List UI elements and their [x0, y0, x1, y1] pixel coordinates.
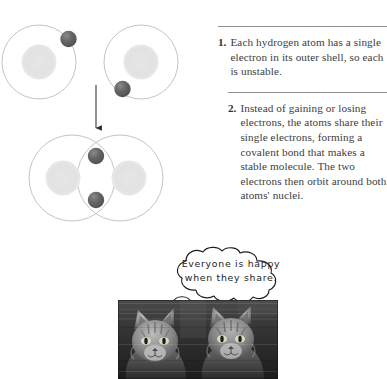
step-2: 2. Instead of gaining or losing electron… — [214, 92, 387, 203]
step-1: 1. Each hydrogen atom has a single elect… — [214, 26, 387, 79]
step-2-number: 2. — [228, 101, 236, 116]
atom-diagram-svg — [0, 0, 196, 245]
steps-panel: 1. Each hydrogen atom has a single elect… — [214, 26, 387, 203]
hydrogen-molecule — [29, 135, 163, 221]
electron — [114, 81, 130, 97]
bubble-text: Everyone is happy when they share. — [176, 257, 286, 284]
cats-photo-svg — [118, 300, 278, 379]
step-1-divider — [218, 26, 387, 27]
nucleus — [124, 45, 159, 80]
figure-page: 1. Each hydrogen atom has a single elect… — [0, 0, 387, 379]
shared-electron-top — [88, 148, 104, 164]
atom-diagram-panel — [0, 0, 196, 245]
nucleus-right — [112, 161, 147, 196]
electron — [60, 31, 76, 47]
nucleus — [22, 45, 57, 80]
step-2-divider — [228, 92, 387, 93]
hydrogen-atom-left — [2, 25, 77, 99]
bubble-line-2: when they share. — [176, 271, 286, 285]
step-1-number: 1. — [218, 35, 226, 50]
cats-photo — [118, 300, 278, 379]
shared-electron-bottom — [88, 192, 104, 208]
thought-bubble: Everyone is happy when they share. — [128, 246, 293, 308]
step-1-text: Each hydrogen atom has a single electron… — [230, 35, 387, 79]
hydrogen-atom-right — [104, 25, 178, 99]
nucleus-left — [46, 161, 81, 196]
bubble-line-1: Everyone is happy — [176, 257, 286, 271]
step-2-text: Instead of gaining or losing electrons, … — [240, 101, 387, 203]
